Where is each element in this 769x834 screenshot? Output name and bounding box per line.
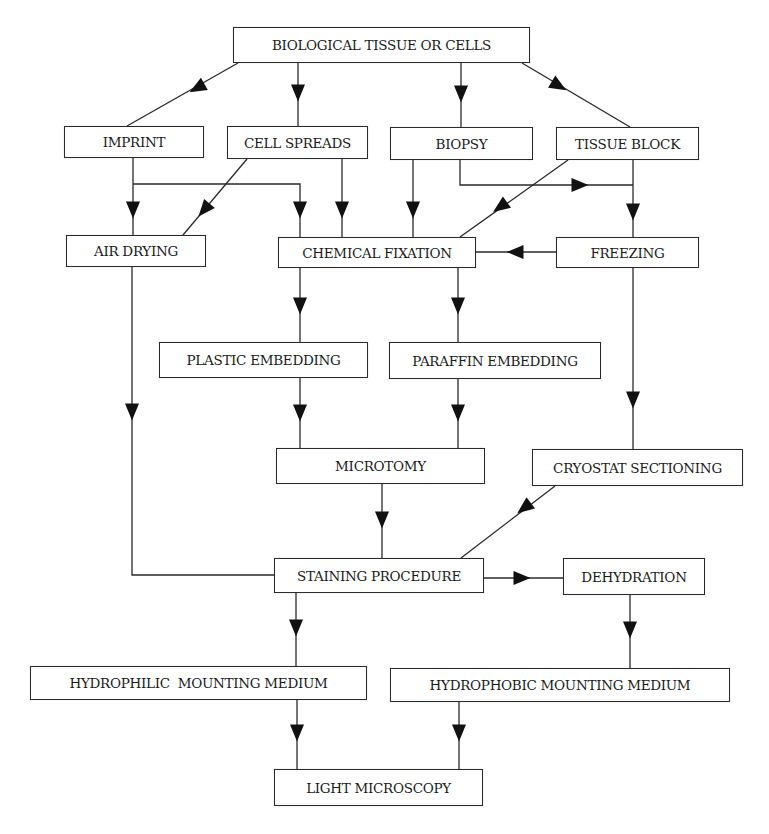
node-hydrophobic-mounting-medium: HYDROPHOBIC MOUNTING MEDIUM	[390, 668, 730, 702]
node-label: STAINING PROCEDURE	[297, 568, 461, 584]
arrowhead-icon	[293, 298, 307, 315]
arrowhead-icon	[335, 202, 349, 219]
node-label: CRYOSTAT SECTIONING	[553, 460, 722, 476]
edge-line	[183, 159, 247, 235]
edge-line	[132, 267, 274, 575]
node-label: FREEZING	[590, 245, 664, 261]
node-cell-spreads: CELL SPREADS	[227, 126, 368, 159]
node-biopsy: BIOPSY	[390, 127, 533, 160]
node-cryostat-sectioning: CRYOSTAT SECTIONING	[532, 449, 743, 486]
node-microtomy: MICROTOMY	[276, 448, 485, 484]
arrowhead-icon	[190, 78, 208, 93]
flowchart-canvas: BIOLOGICAL TISSUE OR CELLS IMPRINT CELL …	[0, 0, 769, 834]
arrowhead-icon	[290, 725, 304, 742]
node-label: MICROTOMY	[335, 458, 426, 474]
arrowhead-icon	[406, 202, 420, 219]
node-label: HYDROPHOBIC MOUNTING MEDIUM	[430, 677, 691, 693]
arrowhead-icon	[454, 86, 468, 103]
arrowhead-icon	[125, 404, 139, 421]
arrowhead-icon	[451, 405, 465, 422]
arrowhead-icon	[293, 405, 307, 422]
arrowhead-icon	[199, 199, 215, 217]
arrowhead-icon	[626, 392, 640, 409]
arrowhead-icon	[451, 298, 465, 315]
arrowhead-icon	[293, 202, 307, 219]
node-air-drying: AIR DRYING	[66, 235, 206, 267]
node-staining-procedure: STAINING PROCEDURE	[274, 558, 484, 593]
node-label: HYDROPHILIC MOUNTING MEDIUM	[69, 675, 327, 691]
arrowhead-icon	[548, 76, 566, 91]
node-tissue-block: TISSUE BLOCK	[556, 127, 699, 160]
node-label: BIOPSY	[436, 136, 488, 152]
arrowhead-icon	[517, 497, 535, 513]
node-label: PLASTIC EMBEDDING	[187, 352, 341, 368]
node-label: IMPRINT	[103, 134, 165, 150]
edge-line	[461, 486, 555, 558]
arrowhead-icon	[493, 196, 511, 212]
arrowhead-icon	[626, 204, 640, 221]
edge-line	[522, 63, 630, 127]
arrowhead-icon	[126, 202, 140, 219]
node-biological-tissue-or-cells: BIOLOGICAL TISSUE OR CELLS	[233, 27, 530, 63]
node-label: AIR DRYING	[94, 243, 178, 259]
node-freezing: FREEZING	[556, 237, 699, 268]
arrowhead-icon	[623, 622, 637, 639]
node-label: CELL SPREADS	[244, 135, 351, 151]
node-chemical-fixation: CHEMICAL FIXATION	[278, 237, 476, 268]
edge-line	[460, 160, 633, 185]
edge-line	[460, 160, 568, 237]
node-plastic-embedding: PLASTIC EMBEDDING	[159, 342, 368, 378]
node-label: BIOLOGICAL TISSUE OR CELLS	[272, 37, 491, 53]
arrowhead-icon	[514, 571, 531, 585]
node-light-microscopy: LIGHT MICROSCOPY	[274, 769, 483, 806]
node-label: TISSUE BLOCK	[575, 136, 680, 152]
arrowhead-icon	[572, 178, 589, 192]
node-dehydration: DEHYDRATION	[563, 558, 705, 595]
edge-line	[127, 63, 238, 126]
arrowhead-icon	[507, 245, 524, 259]
arrowhead-icon	[289, 620, 303, 637]
arrowhead-icon	[291, 85, 305, 102]
node-label: LIGHT MICROSCOPY	[306, 780, 451, 796]
node-label: PARAFFIN EMBEDDING	[412, 353, 577, 369]
node-imprint: IMPRINT	[64, 126, 204, 158]
arrowhead-icon	[375, 512, 389, 529]
edge-line	[133, 184, 300, 237]
arrowhead-icon	[452, 725, 466, 742]
node-hydrophilic-mounting-medium: HYDROPHILIC MOUNTING MEDIUM	[30, 666, 367, 700]
node-paraffin-embedding: PARAFFIN EMBEDDING	[389, 342, 601, 379]
node-label: DEHYDRATION	[581, 569, 686, 585]
node-label: CHEMICAL FIXATION	[302, 245, 451, 261]
